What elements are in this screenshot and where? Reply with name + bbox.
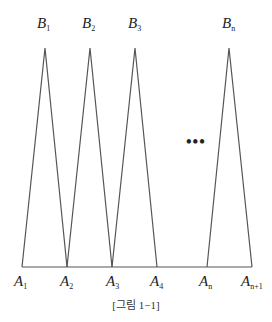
triangle-1	[22, 48, 67, 267]
label-bn: Bn	[222, 16, 235, 33]
ellipsis: •••	[186, 133, 206, 151]
triangles-diagram	[0, 0, 272, 322]
triangle-2	[67, 48, 112, 267]
label-a3: A3	[106, 274, 119, 291]
label-a4: A4	[150, 274, 163, 291]
label-b2: B2	[82, 16, 95, 33]
label-an1: An+1	[241, 274, 263, 291]
figure-caption: [그림 1−1]	[0, 296, 272, 312]
label-b1: B1	[37, 16, 50, 33]
triangle-n	[207, 48, 252, 267]
label-a1: A1	[14, 274, 27, 291]
label-a2: A2	[60, 274, 73, 291]
label-an: An	[199, 274, 212, 291]
triangle-3	[112, 48, 157, 267]
label-b3: B3	[128, 16, 141, 33]
